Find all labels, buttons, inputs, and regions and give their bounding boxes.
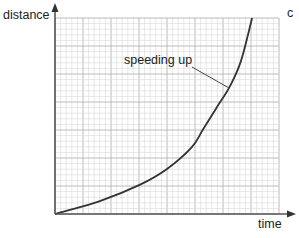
x-axis-arrow-icon	[287, 211, 296, 218]
x-axis-label: time	[258, 218, 282, 231]
speeding-up-annotation: speeding up	[124, 54, 192, 67]
cutoff-text: c	[287, 7, 293, 20]
y-axis-label: distance	[3, 9, 50, 22]
distance-time-graph	[0, 0, 299, 238]
y-axis-arrow-icon	[52, 3, 59, 12]
